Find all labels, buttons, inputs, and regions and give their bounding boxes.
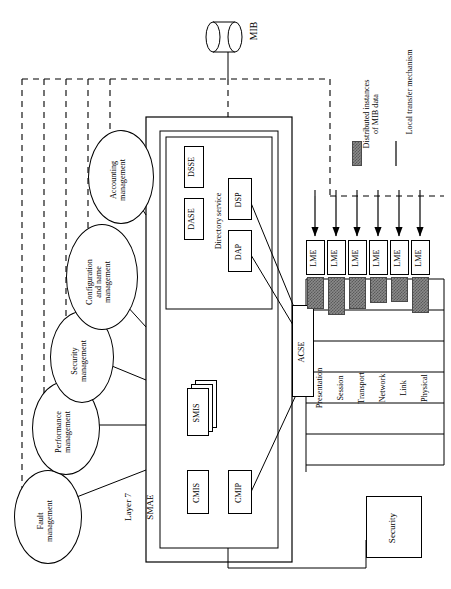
lme-label: LME (394, 241, 406, 276)
lme-box-transport[interactable]: LME (348, 240, 367, 275)
layer-label-physical: Physical (421, 348, 433, 428)
dsse-box[interactable]: DSSE (184, 146, 204, 188)
acse-connectors (251, 203, 296, 492)
security-connector (228, 540, 366, 568)
lme-label: LME (373, 241, 385, 276)
management-oval-label: Configuration and name management (86, 230, 118, 334)
lme-label: LME (331, 241, 343, 276)
layer-label-session: Session (337, 348, 349, 428)
mib-distribution-arrows (315, 190, 420, 236)
lme-box-network[interactable]: LME (369, 240, 388, 275)
mib-instance-block-link (391, 277, 408, 302)
layer-label-transport: Transport (358, 348, 370, 428)
lme-label: LME (310, 241, 322, 276)
lme-box-physical[interactable]: LME (411, 240, 430, 275)
cmis-box[interactable]: CMIS (187, 470, 209, 514)
mib-instance-block-presentation (307, 277, 324, 309)
dsp-box[interactable]: DSP (228, 178, 252, 220)
layer-label-presentation: Presentation (316, 348, 328, 428)
layer-label-network: Network (379, 348, 391, 428)
legend-swatch-hatched (352, 141, 362, 166)
lme-label: LME (352, 241, 364, 276)
dap-box[interactable]: DAP (228, 230, 252, 272)
diagram-canvas: MIB Fault management Performance managem… (0, 0, 451, 589)
dap-label: DAP (235, 231, 247, 273)
mib-instance-block-session (328, 277, 345, 315)
mib-instance-block-network (370, 277, 387, 303)
management-oval-label: Fault management (37, 475, 59, 567)
layer-label-link: Link (400, 348, 412, 428)
lme-box-link[interactable]: LME (390, 240, 409, 275)
acse-label: ACSE (298, 306, 310, 398)
layer7-label: Layer 7 (124, 482, 138, 532)
security-label: Security (388, 498, 402, 558)
legend-label-local-transfer: Local transfer mechanism (406, 33, 418, 151)
acse-box[interactable]: ACSE (292, 305, 314, 397)
dase-box[interactable]: DASE (184, 198, 204, 240)
management-oval-configuration[interactable]: Configuration and name management (66, 224, 138, 330)
dsp-label: DSP (235, 179, 247, 221)
dsse-label: DSSE (188, 146, 200, 188)
mib-instance-block-transport (349, 277, 366, 309)
management-oval-fault[interactable]: Fault management (14, 470, 82, 564)
cmip-label: CMIP (235, 471, 247, 515)
lme-box-session[interactable]: LME (327, 240, 346, 275)
lme-box-presentation[interactable]: LME (306, 240, 325, 275)
cmip-box[interactable]: CMIP (228, 470, 252, 514)
smae-label: SMAE (146, 482, 160, 532)
mib-instance-block-physical (412, 277, 429, 313)
smis-box[interactable]: SMIS (187, 388, 209, 436)
management-oval-label: Accounting management (110, 134, 132, 226)
smis-label: SMIS (193, 389, 205, 437)
mib-cylinder-icon (206, 22, 242, 52)
lme-label: LME (415, 241, 427, 276)
legend-label-distributed-mib: Distributed instances of MIB data (363, 55, 385, 173)
cmis-label: CMIS (193, 471, 205, 515)
dase-label: DASE (188, 198, 200, 240)
directory-service-label: Directory service (215, 184, 229, 258)
mib-label: MIB (249, 9, 263, 53)
security-box[interactable]: Security (366, 496, 422, 558)
management-oval-accounting[interactable]: Accounting management (88, 130, 154, 224)
